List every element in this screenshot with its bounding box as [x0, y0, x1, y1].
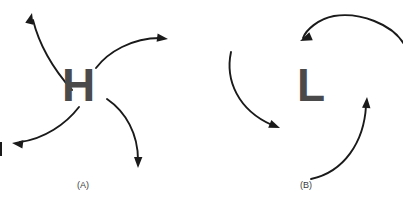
arrow-high-upper-right — [96, 33, 169, 68]
arrow-low-bottom-right-head — [362, 97, 371, 109]
arrow-high-upper-right-shaft — [96, 38, 160, 68]
arrow-high-upper-right-head — [157, 33, 169, 43]
arrow-high-lower-right-shaft — [107, 99, 138, 160]
arrow-low-top-arc — [298, 15, 403, 45]
high-pressure-center: H — [62, 62, 95, 108]
arrow-layer — [0, 0, 403, 203]
arrow-high-lower-right-head — [134, 157, 143, 168]
arrow-high-lower-left-head — [11, 139, 23, 149]
panel-b-label: (B) — [300, 180, 312, 190]
pressure-circulation-figure: H L (A) (B) — [0, 0, 403, 203]
panel-a-label: (A) — [77, 180, 89, 190]
arrow-low-left-head — [268, 120, 281, 132]
arrow-high-lower-left-shaft — [20, 107, 79, 142]
left-edge-clipped-tick-icon — [0, 142, 2, 156]
arrow-low-top-arc-shaft — [303, 15, 403, 44]
arrow-high-lower-right — [107, 99, 142, 168]
low-pressure-center: L — [297, 62, 325, 108]
arrow-low-left — [230, 52, 282, 132]
arrow-low-bottom-right-shaft — [311, 106, 366, 179]
arrow-high-lower-left — [11, 107, 79, 149]
arrow-low-left-shaft — [230, 52, 272, 125]
